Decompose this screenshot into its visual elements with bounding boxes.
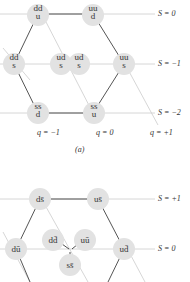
baryon-node: uud	[82, 4, 104, 26]
meson-node: ud̄	[113, 238, 135, 260]
strangeness-label: S = −1	[158, 59, 181, 68]
meson-node: uū	[74, 229, 96, 251]
baryon-node: uds	[68, 53, 90, 75]
baryon-node: uus	[113, 53, 135, 75]
strangeness-label: S = −2	[158, 108, 181, 117]
charge-label: q = +1	[150, 128, 173, 137]
baryon-node: ssd	[27, 102, 49, 124]
baryon-node: ddu	[27, 4, 49, 26]
meson-node: us̄	[87, 188, 109, 210]
charge-label: q = 0	[96, 128, 113, 137]
strangeness-label: S = 0	[158, 244, 175, 253]
meson-node: ss̄	[59, 254, 81, 276]
meson-node: dū	[5, 238, 27, 260]
caption: (a)	[75, 145, 84, 154]
strangeness-label: S = +1	[158, 194, 181, 203]
baryon-node: dds	[3, 53, 25, 75]
charge-label: q = −1	[37, 128, 60, 137]
strangeness-label: S = 0	[158, 9, 175, 18]
baryon-node: ssu	[83, 102, 105, 124]
meson-node: dd̄	[42, 229, 64, 251]
meson-node: ds̄	[29, 188, 51, 210]
